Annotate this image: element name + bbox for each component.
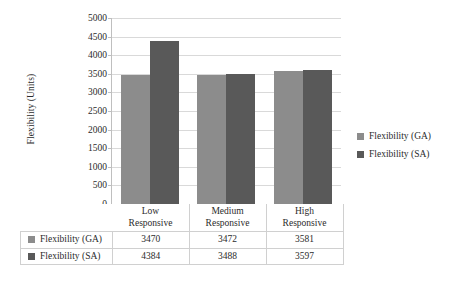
- y-tick-mark: [108, 130, 112, 131]
- y-tick-mark: [108, 74, 112, 75]
- table-column-header-line2: Responsive: [113, 218, 189, 230]
- legend-swatch-icon: [357, 133, 364, 140]
- y-tick-mark: [108, 92, 112, 93]
- legend-item-label: Flexibility (GA): [369, 131, 431, 141]
- table-corner-cell: [21, 204, 113, 232]
- y-tick-label: 4500: [88, 32, 107, 42]
- y-tick-label: 3500: [88, 69, 107, 79]
- data-table: LowResponsiveMediumResponsiveHighRespons…: [20, 204, 344, 265]
- table-series-cell: Flexibility (GA): [21, 232, 113, 249]
- plot-inner: [112, 18, 341, 204]
- chart-legend: Flexibility (GA)Flexibility (SA): [357, 127, 452, 163]
- legend-swatch-icon: [357, 151, 364, 158]
- table-value-cell: 3597: [266, 248, 343, 265]
- bar-group: [112, 18, 188, 204]
- y-tick-label: 5000: [88, 13, 107, 23]
- y-tick-mark: [108, 185, 112, 186]
- plot-area: 5000450040003500300025002000150010005000…: [112, 18, 341, 204]
- y-tick-label: 3000: [88, 87, 107, 97]
- y-tick-mark: [108, 37, 112, 38]
- table-column-header-line2: Responsive: [190, 218, 266, 230]
- bar-sa[interactable]: [303, 70, 332, 204]
- y-tick-mark: [108, 167, 112, 168]
- y-tick-mark: [108, 148, 112, 149]
- y-tick-mark: [108, 55, 112, 56]
- table-series-cell: Flexibility (SA): [21, 248, 113, 265]
- table-value-cell: 3488: [189, 248, 266, 265]
- bar-chart: Flexibility (Units) 50004500400035003000…: [0, 0, 456, 210]
- table-value-cell: 3581: [266, 232, 343, 249]
- table-column-header-line1: Medium: [211, 206, 243, 216]
- bar-group: [188, 18, 264, 204]
- legend-item[interactable]: Flexibility (GA): [357, 127, 452, 145]
- table-value-cell: 3472: [189, 232, 266, 249]
- bar-ga[interactable]: [121, 75, 150, 204]
- table-column-header-line2: Responsive: [267, 218, 343, 230]
- table-value-cell: 4384: [113, 248, 190, 265]
- data-table-body: LowResponsiveMediumResponsiveHighRespons…: [21, 204, 344, 265]
- table-column-header-line1: Low: [142, 206, 159, 216]
- y-tick-label: 1000: [88, 162, 107, 172]
- table-series-label: Flexibility (GA): [40, 234, 102, 244]
- table-series-swatch-icon: [28, 236, 35, 243]
- y-axis-title: Flexibility (Units): [26, 39, 36, 179]
- chart-figure: Flexibility (Units) 50004500400035003000…: [0, 0, 456, 298]
- y-tick-label: 2500: [88, 106, 107, 116]
- bar-group: [265, 18, 341, 204]
- table-column-header: HighResponsive: [266, 204, 343, 232]
- y-tick-label: 2000: [88, 125, 107, 135]
- bar-sa[interactable]: [150, 41, 179, 204]
- table-row: Flexibility (SA)438434883597: [21, 248, 344, 265]
- y-tick-label: 500: [93, 180, 107, 190]
- bar-sa[interactable]: [226, 74, 255, 204]
- y-tick-mark: [108, 18, 112, 19]
- bar-ga[interactable]: [197, 75, 226, 204]
- table-series-swatch-icon: [28, 253, 35, 260]
- legend-item[interactable]: Flexibility (SA): [357, 145, 452, 163]
- y-tick-label: 1500: [88, 143, 107, 153]
- table-row: Flexibility (GA)347034723581: [21, 232, 344, 249]
- table-value-cell: 3470: [113, 232, 190, 249]
- bar-ga[interactable]: [274, 71, 303, 204]
- table-column-header-line1: High: [295, 206, 314, 216]
- table-column-header: MediumResponsive: [189, 204, 266, 232]
- table-column-header: LowResponsive: [113, 204, 190, 232]
- table-header-row: LowResponsiveMediumResponsiveHighRespons…: [21, 204, 344, 232]
- y-tick-mark: [108, 111, 112, 112]
- y-tick-label: 4000: [88, 50, 107, 60]
- legend-item-label: Flexibility (SA): [369, 149, 429, 159]
- table-series-label: Flexibility (SA): [40, 251, 100, 261]
